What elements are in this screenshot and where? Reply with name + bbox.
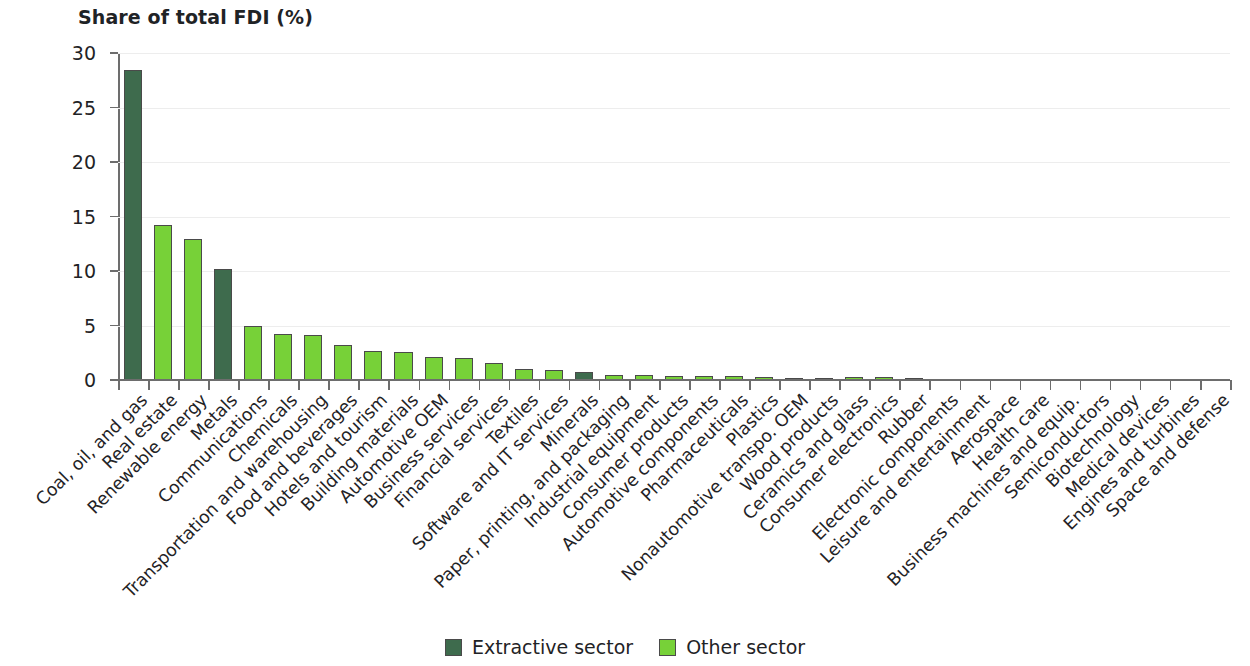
x-axis-tick [358, 380, 360, 390]
legend-item[interactable]: Extractive sector [445, 636, 633, 658]
x-axis-tick [419, 380, 421, 390]
bar[interactable] [394, 352, 412, 380]
x-axis-labels: Coal, oil, and gasReal estateRenewable e… [0, 390, 1250, 620]
x-axis-tick [1170, 380, 1172, 390]
y-axis-tick-label: 10 [72, 260, 96, 282]
x-axis-tick [749, 380, 751, 390]
y-axis-tick [110, 107, 118, 109]
x-axis-tick [569, 380, 571, 390]
x-axis-tick [1200, 380, 1202, 390]
x-axis-tick [208, 380, 210, 390]
bar[interactable] [485, 363, 503, 380]
x-axis-tick [899, 380, 901, 390]
x-axis-tick [449, 380, 451, 390]
legend-swatch-other [659, 639, 676, 656]
chart-title: Share of total FDI (%) [78, 6, 313, 28]
x-axis-tick [238, 380, 240, 390]
x-axis-tick [298, 380, 300, 390]
bar[interactable] [214, 269, 232, 380]
chart-legend: Extractive sectorOther sector [0, 636, 1250, 658]
x-axis-tick [148, 380, 150, 390]
y-axis-tick [110, 270, 118, 272]
x-axis-tick [869, 380, 871, 390]
x-axis-tick [1080, 380, 1082, 390]
bar[interactable] [154, 225, 172, 380]
x-axis-tick [629, 380, 631, 390]
y-axis-tick-label: 25 [72, 97, 96, 119]
x-axis-tick [1050, 380, 1052, 390]
bar[interactable] [334, 345, 352, 380]
y-axis-tick [110, 52, 118, 54]
x-axis-tick [599, 380, 601, 390]
bar[interactable] [425, 357, 443, 380]
x-axis-tick [990, 380, 992, 390]
y-axis-tick [110, 161, 118, 163]
bar[interactable] [274, 334, 292, 380]
x-axis-tick [1140, 380, 1142, 390]
y-axis-tick-label: 30 [72, 42, 96, 64]
x-axis-tick [929, 380, 931, 390]
y-axis-tick-label: 15 [72, 206, 96, 228]
y-axis-tick [110, 216, 118, 218]
x-axis-tick [719, 380, 721, 390]
y-axis-tick-label: 20 [72, 151, 96, 173]
x-axis-tick [659, 380, 661, 390]
x-axis-tick [479, 380, 481, 390]
bar[interactable] [184, 239, 202, 380]
y-axis-tick [110, 325, 118, 327]
x-axis-tick [388, 380, 390, 390]
bar[interactable] [364, 351, 382, 380]
x-axis-tick [839, 380, 841, 390]
x-axis-tick [689, 380, 691, 390]
bar[interactable] [304, 335, 322, 380]
y-axis-tick-label: 0 [84, 369, 96, 391]
x-axis-tick [809, 380, 811, 390]
y-axis-tick [110, 379, 118, 381]
legend-label: Other sector [686, 636, 805, 658]
x-axis-tick [1110, 380, 1112, 390]
x-axis-tick [960, 380, 962, 390]
x-axis-tick [178, 380, 180, 390]
x-axis-tick [268, 380, 270, 390]
bar[interactable] [244, 326, 262, 381]
legend-label: Extractive sector [472, 636, 633, 658]
chart-container: Share of total FDI (%) 051015202530 Coal… [0, 0, 1250, 666]
plot-area [118, 53, 1230, 380]
x-axis-tick [118, 380, 120, 390]
legend-swatch-extractive [445, 639, 462, 656]
bar[interactable] [124, 70, 142, 380]
legend-item[interactable]: Other sector [659, 636, 805, 658]
bar[interactable] [455, 358, 473, 380]
x-axis-tick [1020, 380, 1022, 390]
x-axis-tick [328, 380, 330, 390]
x-axis-tick [1230, 380, 1232, 390]
x-axis-tick [509, 380, 511, 390]
y-axis-labels: 051015202530 [70, 53, 108, 380]
x-axis-tick [539, 380, 541, 390]
bar-series [118, 53, 1230, 380]
x-axis-tick [779, 380, 781, 390]
y-axis-tick-label: 5 [84, 315, 96, 337]
x-axis-ticks [118, 380, 1230, 390]
